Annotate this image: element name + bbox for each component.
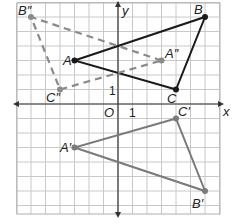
vertex-point-A-prime bbox=[72, 145, 78, 151]
label-C-double-prime: C″ bbox=[46, 90, 60, 105]
triangle-ABC bbox=[75, 17, 206, 90]
label-A: A bbox=[62, 53, 72, 68]
label-B: B bbox=[194, 2, 203, 17]
y-axis-arrow-down-icon bbox=[115, 212, 121, 218]
label-A-prime: A′ bbox=[59, 140, 72, 155]
y-axis-arrow-up-icon bbox=[115, 1, 121, 7]
axes bbox=[13, 1, 224, 218]
vertex-point-B bbox=[202, 14, 208, 20]
label-B-double-prime: B″ bbox=[18, 3, 32, 18]
triangle-A-prime-B-prime-C-prime bbox=[75, 119, 206, 192]
vertex-point-B-prime bbox=[202, 188, 208, 194]
y-tick-label-1: 1 bbox=[109, 84, 116, 98]
diagram-canvas: x y O 1 1 A B C A′ B′ C′ A″ B″ C″ bbox=[0, 0, 235, 224]
y-axis-label: y bbox=[121, 3, 130, 18]
x-axis-label: x bbox=[222, 104, 230, 119]
label-C-prime: C′ bbox=[178, 104, 190, 119]
vertex-point-A bbox=[72, 58, 78, 64]
coordinate-plane-diagram: x y O 1 1 A B C A′ B′ C′ A″ B″ C″ bbox=[0, 0, 235, 224]
origin-label: O bbox=[104, 105, 114, 120]
vertex-point-A-prime-prime bbox=[159, 58, 165, 64]
x-tick-label-1: 1 bbox=[129, 106, 136, 120]
label-C: C bbox=[167, 91, 177, 106]
label-A-double-prime: A″ bbox=[164, 46, 179, 61]
label-B-prime: B′ bbox=[192, 196, 204, 211]
